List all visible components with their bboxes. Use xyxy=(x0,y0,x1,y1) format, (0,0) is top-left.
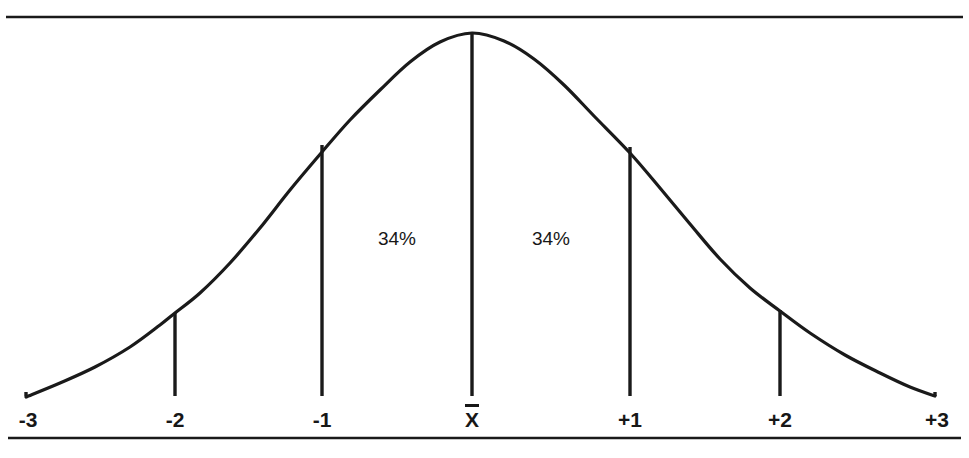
axis-label-+2: +2 xyxy=(768,409,792,430)
axis-label--2: -2 xyxy=(166,409,185,430)
axis-label--1: -1 xyxy=(313,409,332,430)
percent-annotation-2: 34% xyxy=(532,229,570,248)
axis-label--3: -3 xyxy=(19,409,38,430)
axis-label-+1: +1 xyxy=(618,409,642,430)
axis-label-+3: +3 xyxy=(925,409,949,430)
dropline-group xyxy=(175,33,780,396)
tickmark-group xyxy=(26,392,935,396)
axis-label-mean: X xyxy=(465,404,479,430)
percent-annotation-1: 34% xyxy=(378,229,416,248)
axis-label-mean-text: X xyxy=(465,409,479,430)
overbar-glyph xyxy=(465,404,479,407)
bell-curve-path xyxy=(26,33,935,397)
normal-distribution-figure xyxy=(0,0,969,458)
